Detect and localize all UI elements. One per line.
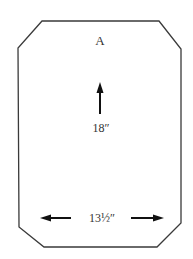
height-dimension-label: 18″: [93, 122, 110, 134]
width-dimension-label: 13½″: [89, 212, 115, 224]
pattern-piece-label: A: [95, 34, 104, 47]
